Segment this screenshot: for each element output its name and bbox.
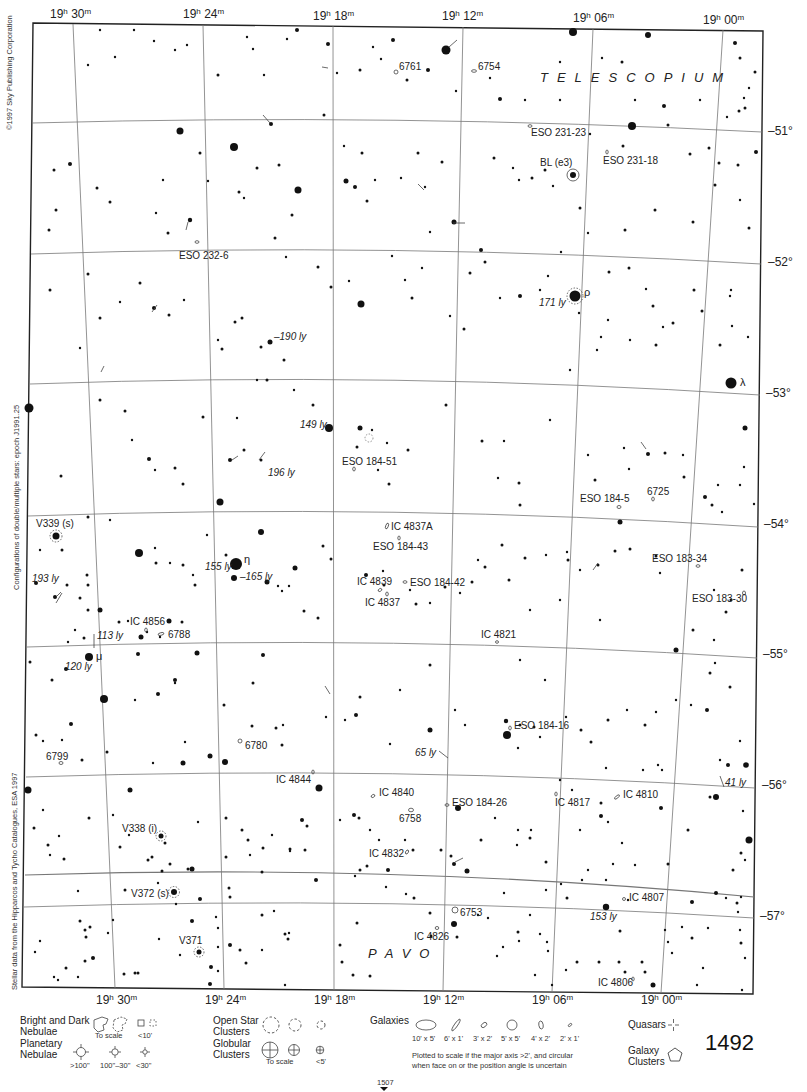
legend-galaxy-size: 2' x 1' — [560, 1034, 580, 1043]
dso-label-6799: 6799 — [46, 751, 69, 762]
dec-label-55: –55° — [763, 647, 788, 661]
dso-label-ic4844: IC 4844 — [276, 774, 311, 785]
galaxy-ic4840-icon — [371, 794, 376, 798]
galaxy-eso183-34-icon — [696, 565, 700, 568]
adjacent-chart-link[interactable]: 1507 — [377, 1078, 394, 1091]
dso-label-eso184-42: ESO 184-42 — [410, 577, 465, 588]
adjacent-chart-number[interactable]: 1507 — [377, 1078, 394, 1087]
stellar-data-credit: Stellar data from the Hipparcos and Tych… — [10, 773, 19, 991]
dec-label-51: –51° — [768, 124, 793, 138]
ra-label-bottom-1918: 19h 18m — [314, 993, 356, 1007]
star — [293, 566, 298, 571]
star-label-eta: η — [244, 553, 250, 565]
dso-label-6753: 6753 — [460, 907, 483, 918]
dso-label-ic4832: IC 4832 — [369, 848, 404, 859]
faint-stars — [29, 28, 759, 991]
star — [645, 32, 651, 38]
legend-open-clusters-title: Open Star — [213, 1015, 259, 1026]
galaxy-6758-icon — [409, 808, 414, 812]
galaxy-4x2-icon — [538, 1021, 544, 1030]
star-chart: 19h 30m 19h 24m 19h 18m 19h 12m 19h 06m … — [0, 0, 807, 1092]
small-dark-nebula-icon — [150, 1020, 156, 1026]
star — [222, 759, 228, 765]
ra-label-top-1900: 19h 00m — [703, 13, 745, 27]
dso-label-6725: 6725 — [647, 486, 670, 497]
star — [746, 837, 753, 844]
open-cluster-icon — [365, 434, 373, 442]
arrow-down-icon[interactable] — [380, 1087, 388, 1091]
dso-label-6780: 6780 — [245, 740, 268, 751]
star — [570, 172, 576, 178]
dso-label-ic4837: IC 4837 — [365, 597, 400, 608]
galaxy-6788-icon — [158, 632, 164, 636]
dso-label-eso231-23: ESO 231-23 — [531, 127, 586, 138]
star — [139, 635, 144, 640]
legend-globular-small: <5' — [316, 1057, 327, 1066]
star — [451, 921, 457, 927]
distance-label: 171 ly — [539, 297, 567, 308]
star — [618, 520, 623, 525]
dark-nebula-icon — [113, 1017, 127, 1032]
legend-galaxy-size: 6' x 1' — [444, 1034, 464, 1043]
star — [167, 619, 172, 624]
copyright-credit: ©1997 Sky Publishing Corporation — [5, 15, 14, 130]
star — [674, 648, 679, 653]
star — [128, 788, 133, 793]
planetary-nebula-small-icon — [140, 1047, 150, 1057]
legend-planetary-title: Planetary — [20, 1038, 62, 1049]
star — [295, 187, 302, 194]
variable-label-bl: BL (e3) — [540, 157, 572, 168]
galaxy-6725-icon — [652, 497, 655, 501]
dso-label-6754: 6754 — [478, 61, 501, 72]
galaxy-3x2-icon — [480, 1021, 487, 1028]
star — [268, 340, 273, 345]
ra-labels-bottom: 19h 30m 19h 24m 19h 18m 19h 12m 19h 06m … — [96, 993, 683, 1007]
ra-label-bottom-1912: 19h 12m — [423, 993, 465, 1007]
dec-label-52: –52° — [768, 255, 793, 269]
legend-nebulae-to-scale: To scale — [95, 1031, 123, 1040]
dec-labels: –51° –52° –53° –54° –55° –56° –57° — [760, 124, 793, 923]
star-rho — [570, 291, 581, 302]
legend-galaxies-title: Galaxies — [370, 1015, 409, 1026]
star-eta — [230, 558, 242, 570]
star-label-rho: ρ — [584, 286, 590, 298]
ra-label-bottom-1930: 19h 30m — [96, 993, 138, 1007]
legend-nebulae-title-2: Nebulae — [20, 1026, 58, 1037]
dso-label-ic4856: IC 4856 — [130, 616, 165, 627]
galaxy-2x1-icon — [568, 1023, 572, 1027]
distance-label: 113 ly — [97, 630, 124, 641]
star — [743, 762, 749, 768]
star — [428, 728, 433, 733]
legend: Bright and Dark Nebulae To scale <10' Pl… — [20, 1015, 754, 1091]
galaxy-ic4810-icon — [614, 794, 620, 800]
legend-galaxies-note-2: when face on or the position angle is un… — [411, 1061, 567, 1070]
star — [358, 301, 365, 308]
legend-galaxies-note: Plotted to scale if the major axis >2', … — [412, 1051, 573, 1060]
star-v372 — [171, 889, 177, 895]
star — [504, 719, 508, 723]
galaxy-eso231-18-icon — [606, 150, 608, 154]
star — [743, 426, 748, 431]
star-bright — [569, 28, 577, 36]
distance-label: 120 ly — [65, 661, 93, 672]
legend-galaxy-size: 5' x 5' — [501, 1034, 521, 1043]
dso-label-6761: 6761 — [399, 61, 422, 72]
galaxy-6754-icon — [472, 70, 477, 73]
star-mu — [85, 653, 93, 661]
ra-label-bottom-1924: 19h 24m — [205, 993, 247, 1007]
dec-label-56: –56° — [762, 778, 787, 792]
legend-planetary-size-medium: 100"–30" — [100, 1061, 131, 1070]
distance-label: 193 ly — [32, 573, 60, 584]
dec-label-57: –57° — [760, 909, 785, 923]
dso-label-ic4806: IC 4806 — [598, 977, 633, 988]
dso-label-ic4840: IC 4840 — [379, 787, 414, 798]
dec-label-53: –53° — [766, 386, 791, 400]
galaxy-ic4844-icon — [312, 770, 314, 774]
open-cluster-medium-icon — [289, 1019, 301, 1031]
legend-planetary-title-2: Nebulae — [20, 1049, 58, 1060]
galaxy-10x5-icon — [416, 1020, 436, 1030]
ra-label-top-1924: 19h 24m — [183, 7, 225, 21]
planetary-nebula-large-icon — [73, 1044, 89, 1060]
star — [713, 794, 719, 800]
legend-galaxy-size: 4' x 2' — [531, 1034, 551, 1043]
